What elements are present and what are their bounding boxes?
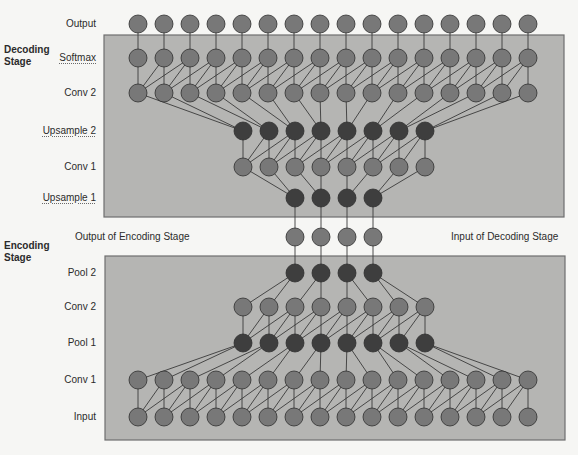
network-graph xyxy=(0,0,578,455)
neuron-node xyxy=(338,264,356,282)
neuron-node xyxy=(363,371,381,389)
neuron-node xyxy=(286,298,304,316)
neuron-node xyxy=(364,334,382,352)
layer-label-dec_upsample2: Upsample 2 xyxy=(0,125,96,137)
neuron-node xyxy=(286,122,304,140)
neuron-node xyxy=(364,298,382,316)
neuron-node xyxy=(415,408,433,426)
neuron-node xyxy=(364,264,382,282)
neuron-node xyxy=(311,371,329,389)
neuron-node xyxy=(234,122,252,140)
neuron-node xyxy=(519,84,537,102)
neuron-node xyxy=(337,49,355,67)
neuron-node xyxy=(312,158,330,176)
neuron-node xyxy=(155,84,173,102)
neuron-node xyxy=(285,49,303,67)
layer-dec_output xyxy=(129,15,537,33)
neuron-node xyxy=(338,334,356,352)
neuron-node xyxy=(337,84,355,102)
neuron-node xyxy=(311,49,329,67)
neuron-node xyxy=(363,408,381,426)
neuron-node xyxy=(181,84,199,102)
neuron-node xyxy=(467,49,485,67)
neuron-node xyxy=(441,408,459,426)
neuron-node xyxy=(311,408,329,426)
neuron-node xyxy=(390,298,408,316)
neuron-node xyxy=(129,408,147,426)
neuron-node xyxy=(259,371,277,389)
layer-label-enc_input: Input xyxy=(0,411,96,423)
neuron-node xyxy=(286,228,304,246)
neuron-node xyxy=(155,15,173,33)
neuron-node xyxy=(233,371,251,389)
neuron-node xyxy=(416,334,434,352)
layer-label-dec_output: Output xyxy=(0,18,96,30)
neuron-node xyxy=(207,15,225,33)
neuron-node xyxy=(312,334,330,352)
neuron-node xyxy=(207,49,225,67)
neuron-node xyxy=(337,15,355,33)
neuron-node xyxy=(312,298,330,316)
neuron-node xyxy=(416,122,434,140)
neuron-node xyxy=(337,371,355,389)
neuron-node xyxy=(260,158,278,176)
layer-label-dec_conv2: Conv 2 xyxy=(0,87,96,99)
encoding-stage-label: Encoding Stage xyxy=(4,240,50,264)
neuron-node xyxy=(416,298,434,316)
neuron-node xyxy=(312,189,330,207)
neuron-node xyxy=(337,408,355,426)
neuron-node xyxy=(415,84,433,102)
neuron-node xyxy=(129,84,147,102)
neuron-node xyxy=(493,84,511,102)
neuron-node xyxy=(364,189,382,207)
neuron-node xyxy=(363,49,381,67)
neuron-node xyxy=(259,49,277,67)
neuron-node xyxy=(312,228,330,246)
neuron-node xyxy=(467,84,485,102)
neuron-node xyxy=(389,49,407,67)
neuron-node xyxy=(467,371,485,389)
neuron-node xyxy=(415,49,433,67)
encoding-stage-line1: Encoding xyxy=(4,240,50,252)
neuron-node xyxy=(286,334,304,352)
neuron-node xyxy=(285,408,303,426)
neuron-node xyxy=(493,371,511,389)
neuron-node xyxy=(389,84,407,102)
neuron-node xyxy=(415,15,433,33)
neuron-node xyxy=(519,408,537,426)
neuron-node xyxy=(519,49,537,67)
neuron-node xyxy=(233,15,251,33)
neuron-node xyxy=(312,122,330,140)
output-of-encoding-label: Output of Encoding Stage xyxy=(75,231,190,243)
neuron-node xyxy=(415,371,433,389)
layer-bottleneck xyxy=(286,228,382,246)
neuron-node xyxy=(285,371,303,389)
layer-label-enc_pool2: Pool 2 xyxy=(0,267,96,279)
neuron-node xyxy=(338,158,356,176)
neuron-node xyxy=(129,15,147,33)
neuron-node xyxy=(129,49,147,67)
neuron-node xyxy=(260,298,278,316)
neuron-node xyxy=(338,228,356,246)
neuron-node xyxy=(493,408,511,426)
neuron-node xyxy=(363,84,381,102)
encoding-stage-line2: Stage xyxy=(4,252,50,264)
neuron-node xyxy=(519,371,537,389)
neuron-node xyxy=(312,264,330,282)
neuron-node xyxy=(234,158,252,176)
neuron-node xyxy=(441,371,459,389)
neuron-node xyxy=(338,122,356,140)
layer-label-dec_softmax: Softmax xyxy=(0,52,96,64)
neuron-node xyxy=(364,122,382,140)
neuron-node xyxy=(234,298,252,316)
neuron-node xyxy=(338,189,356,207)
neuron-node xyxy=(364,158,382,176)
neuron-node xyxy=(338,298,356,316)
neuron-node xyxy=(260,122,278,140)
layer-label-dec_conv1: Conv 1 xyxy=(0,161,96,173)
input-of-decoding-label: Input of Decoding Stage xyxy=(451,231,558,243)
neuron-node xyxy=(364,228,382,246)
neuron-node xyxy=(441,15,459,33)
neuron-node xyxy=(286,189,304,207)
layer-label-enc_conv1: Conv 1 xyxy=(0,374,96,386)
